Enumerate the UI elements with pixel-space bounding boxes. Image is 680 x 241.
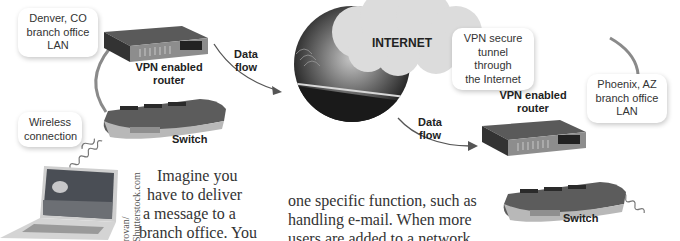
- router-label-right: VPN enabled router: [488, 89, 578, 115]
- body-text-left-column: Imagine you have to deliver a message to…: [139, 166, 257, 241]
- callout-phoenix: Phoenix, AZ branch office LAN: [587, 74, 667, 123]
- laptop-icon: [0, 160, 125, 241]
- data-flow-label-left: Data flow: [226, 48, 266, 74]
- internet-label: INTERNET: [372, 37, 432, 50]
- switch-label-right: Switch: [563, 212, 598, 225]
- body-text-right-column: one specific function, such as handling …: [288, 191, 486, 241]
- callout-vpn-tunnel: VPN secure tunnel through the Internet: [452, 28, 534, 90]
- data-flow-label-right: Data flow: [410, 116, 450, 142]
- callout-denver: Denver, CO branch office LAN: [18, 8, 98, 57]
- switch-icon-left: [100, 95, 230, 140]
- switch-label-left: Switch: [172, 133, 207, 146]
- router-icon-left: [100, 22, 210, 62]
- callout-wireless: Wireless connection: [18, 112, 82, 147]
- router-label-left: VPN enabled router: [124, 61, 214, 87]
- router-icon-right: [478, 116, 588, 156]
